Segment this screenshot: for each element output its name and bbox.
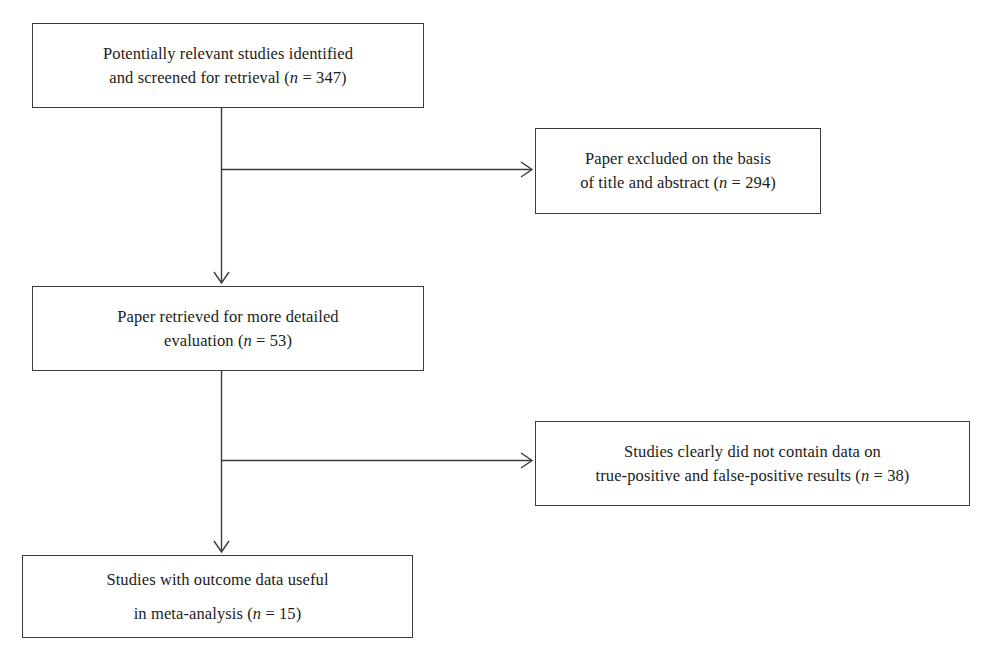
studies-no-data-box: Studies clearly did not contain data ont… <box>535 421 970 506</box>
potentially-relevant-studies-box: Potentially relevant studies identifieda… <box>32 23 424 108</box>
edge-retrieved-to-useful <box>214 371 229 552</box>
paper-retrieved-text: Paper retrieved for more detailedevaluat… <box>107 305 348 353</box>
studies-no-data-text: Studies clearly did not contain data ont… <box>586 440 920 488</box>
paper-excluded-box: Paper excluded on the basisof title and … <box>535 128 821 214</box>
paper-retrieved-box: Paper retrieved for more detailedevaluat… <box>32 286 424 371</box>
edge-retrieved-to-nodata <box>222 453 533 468</box>
flowchart-canvas: Potentially relevant studies identifieda… <box>0 0 988 658</box>
edge-identified-to-excluded <box>222 162 533 177</box>
studies-useful-text: Studies with outcome data usefulin meta-… <box>96 563 338 631</box>
potentially-relevant-studies-text: Potentially relevant studies identifieda… <box>93 42 363 90</box>
studies-useful-box: Studies with outcome data usefulin meta-… <box>22 555 413 638</box>
edge-identified-to-retrieved <box>214 108 229 283</box>
paper-excluded-text: Paper excluded on the basisof title and … <box>570 147 786 195</box>
